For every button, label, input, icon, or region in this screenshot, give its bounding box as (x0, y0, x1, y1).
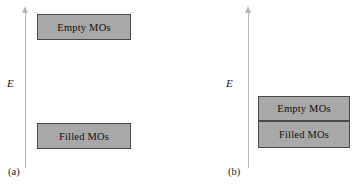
panel-a-empty-mos-band: Empty MOs (37, 14, 131, 40)
axis-shaft (248, 11, 249, 168)
panel-a: E Empty MOs Filled MOs (a) (0, 0, 181, 187)
band-label: Filled MOs (59, 131, 109, 142)
panel-b: E Empty MOs Filled MOs (b) (181, 0, 362, 187)
panel-b-empty-mos-band: Empty MOs (258, 96, 350, 121)
axis-shaft (25, 11, 26, 168)
panel-a-caption: (a) (8, 167, 20, 178)
panel-a-axis-label: E (7, 78, 14, 89)
panel-b-filled-mos-band: Filled MOs (258, 121, 350, 148)
band-label: Empty MOs (277, 103, 330, 114)
panel-b-caption: (b) (228, 167, 240, 178)
panel-a-filled-mos-band: Filled MOs (37, 123, 131, 149)
band-label: Empty MOs (57, 22, 110, 33)
panel-a-energy-axis (19, 6, 32, 168)
band-label: Filled MOs (279, 129, 329, 140)
panel-b-energy-axis (242, 6, 255, 168)
mo-band-diagram-figure: E Empty MOs Filled MOs (a) E Empty MOs F… (0, 0, 362, 187)
panel-b-axis-label: E (226, 78, 233, 89)
